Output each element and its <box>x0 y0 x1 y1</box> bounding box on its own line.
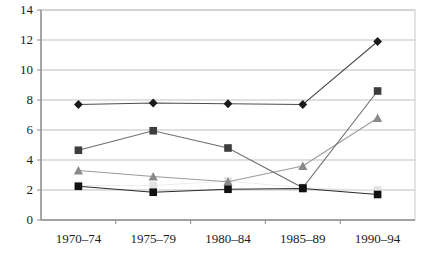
y-axis-tick-label: 2 <box>9 183 33 196</box>
y-axis-tick-label: 10 <box>9 63 33 76</box>
data-point-marker <box>75 182 83 190</box>
x-axis-tick-label: 1970–74 <box>40 232 116 245</box>
data-point-marker <box>75 146 83 154</box>
x-axis-tick-label: 1975–79 <box>115 232 191 245</box>
y-axis-tick-label: 0 <box>9 213 33 226</box>
y-axis-tick-label: 14 <box>9 3 33 16</box>
data-point-marker <box>374 191 382 199</box>
chart-plot-area <box>0 0 435 258</box>
x-axis-tick-label: 1990–94 <box>340 232 416 245</box>
y-axis-tick-label: 6 <box>9 123 33 136</box>
line-chart: 024681012141970–741975–791980–841985–891… <box>0 0 435 258</box>
data-point-marker <box>149 127 157 135</box>
y-axis-tick-label: 4 <box>9 153 33 166</box>
data-point-marker <box>299 185 307 193</box>
x-axis-tick-label: 1985–89 <box>265 232 341 245</box>
data-point-marker <box>149 182 157 190</box>
data-point-marker <box>374 87 382 95</box>
data-point-marker <box>149 188 157 196</box>
x-axis-tick-label: 1980–84 <box>190 232 266 245</box>
data-point-marker <box>224 144 232 152</box>
y-axis-tick-label: 12 <box>9 33 33 46</box>
data-point-marker <box>224 185 232 193</box>
y-axis-tick-label: 8 <box>9 93 33 106</box>
